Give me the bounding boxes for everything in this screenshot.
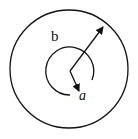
label-b: b bbox=[51, 28, 59, 45]
diagram: b a bbox=[0, 0, 138, 139]
outer-circle bbox=[10, 10, 128, 128]
label-a: a bbox=[79, 88, 86, 104]
radius-b-arrow bbox=[70, 27, 103, 71]
radius-a-arrow bbox=[70, 71, 79, 91]
inner-arc bbox=[46, 47, 94, 95]
diagram-graphic bbox=[0, 0, 138, 139]
